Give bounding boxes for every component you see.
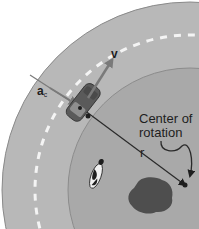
car-mid-point	[78, 106, 82, 110]
velocity-label: v	[111, 48, 118, 60]
centripetal-accel-label: ac	[37, 85, 47, 98]
center-of-rotation-point	[183, 183, 188, 188]
center-label-line2: rotation	[139, 126, 192, 140]
accel-label-sub: c	[44, 91, 48, 98]
center-of-rotation-label: Center of rotation	[139, 112, 192, 140]
radius-label: r	[140, 146, 144, 159]
center-label-line1: Center of	[139, 112, 192, 126]
accel-label-main: a	[37, 84, 44, 98]
car-center-point	[86, 114, 91, 119]
centripetal-diagram: v ac r Center of rotation	[0, 0, 199, 229]
